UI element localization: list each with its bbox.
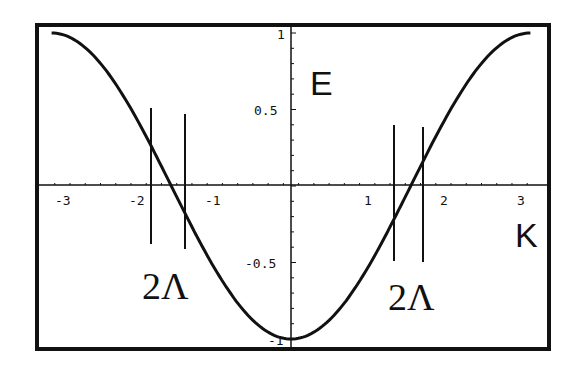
e-axis-label: E — [310, 64, 333, 102]
k-axis-label: K — [515, 216, 538, 254]
x-tick-label: 3 — [517, 193, 525, 208]
x-tick-label: 2 — [440, 193, 448, 208]
x-tick-label: -2 — [129, 193, 145, 208]
y-tick-label: 0.5 — [254, 103, 277, 118]
y-tick-label: -0.5 — [245, 256, 276, 271]
x-tick-label: -3 — [55, 193, 71, 208]
x-tick-label: 1 — [364, 193, 372, 208]
dispersion-chart: -3 -2 -1 1 2 3 1 0.5 -0.5 -1 E K 2Λ 2Λ — [0, 0, 575, 367]
lambda-label-left: 2Λ — [142, 265, 189, 307]
lambda-label-right: 2Λ — [388, 276, 435, 318]
axis-ticks — [55, 33, 527, 339]
x-tick-label: -1 — [205, 193, 221, 208]
y-tick-label: 1 — [277, 27, 285, 42]
